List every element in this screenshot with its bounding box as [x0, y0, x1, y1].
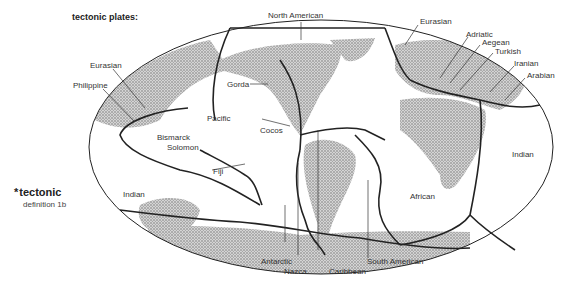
label-indian-east: Indian [512, 150, 534, 159]
label-bismarck: Bismarck [157, 133, 191, 142]
label-nazca: Nazca [284, 267, 307, 276]
label-african: African [410, 192, 435, 201]
label-arabian: Arabian [527, 71, 555, 80]
label-cocos: Cocos [260, 126, 283, 135]
label-gorda: Gorda [227, 80, 250, 89]
label-iranian: Iranian [514, 59, 538, 68]
label-fiji: Fiji [213, 167, 223, 176]
label-antarctic: Antarctic [261, 257, 292, 266]
world-map: North American Eurasian Eurasian Philipp… [0, 0, 564, 285]
label-aegean: Aegean [482, 38, 510, 47]
label-solomon: Solomon [167, 143, 199, 152]
label-north-american: North American [268, 11, 323, 20]
label-pacific: Pacific [207, 114, 231, 123]
label-south-american: South American [367, 257, 423, 266]
label-eurasian-east: Eurasian [420, 17, 452, 26]
label-caribbean: Caribbean [329, 267, 366, 276]
label-turkish: Turkish [495, 47, 521, 56]
label-indian-west: Indian [123, 190, 145, 199]
label-eurasian-west: Eurasian [90, 61, 122, 70]
label-philippine: Philippine [73, 81, 108, 90]
